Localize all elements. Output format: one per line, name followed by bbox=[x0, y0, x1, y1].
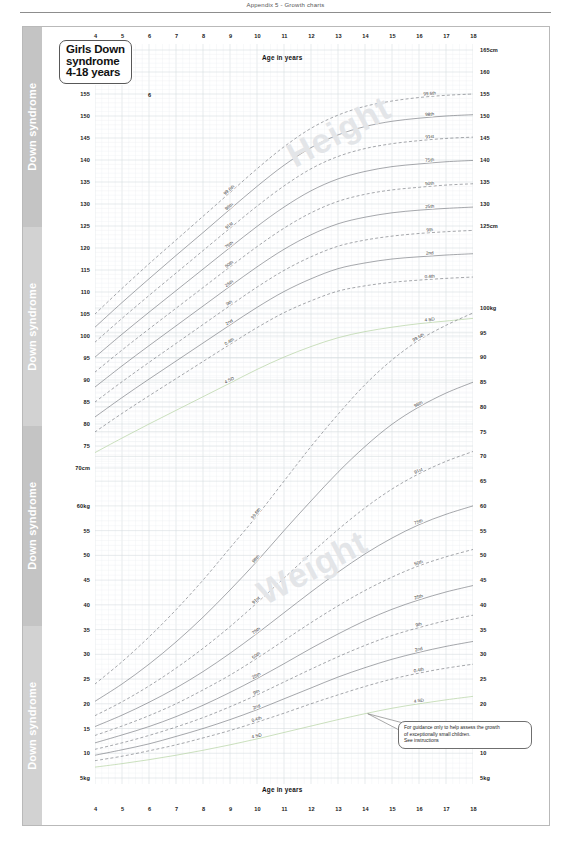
weight-tick-left: 30 bbox=[52, 651, 90, 657]
age-tick-top: 10 bbox=[253, 33, 262, 39]
height-tick-left: 130 bbox=[52, 201, 90, 207]
age-tick-bottom: 5 bbox=[118, 806, 127, 812]
height-tick-left: 90 bbox=[52, 377, 90, 383]
weight-tick-left: 5kg bbox=[52, 775, 90, 781]
weight-tick-right: 80 bbox=[480, 404, 486, 410]
weight-tick-left: 10 bbox=[52, 750, 90, 756]
curve-label-height: 75th bbox=[425, 157, 435, 163]
height-tick-left: 95 bbox=[52, 355, 90, 361]
height-tick-right: 140 bbox=[480, 157, 490, 163]
chart-title-line3: 4-18 years bbox=[66, 67, 125, 79]
height-tick-left: 80 bbox=[52, 421, 90, 427]
curve-label-height: 9th bbox=[225, 299, 233, 307]
age-tick-bottom: 16 bbox=[415, 806, 424, 812]
height-tick-right: 135 bbox=[480, 179, 490, 185]
weight-tick-right: 70 bbox=[480, 453, 486, 459]
curve-label-weight: 9th bbox=[252, 688, 260, 695]
weight-tick-right: 95 bbox=[480, 330, 486, 336]
curve-label-weight: 75th bbox=[413, 518, 424, 526]
weight-tick-right: 40 bbox=[480, 602, 486, 608]
age-tick-bottom: 11 bbox=[280, 806, 289, 812]
weight-tick-right: 5kg bbox=[480, 775, 490, 781]
side-spine-segment: Down syndrome bbox=[23, 227, 42, 427]
age-tick-bottom: 10 bbox=[253, 806, 262, 812]
weight-tick-right: 50 bbox=[480, 552, 486, 558]
curve-label-height: 99.6th bbox=[423, 90, 437, 96]
curve-label-height: 0.4th bbox=[424, 273, 435, 279]
age-tick-top: 11 bbox=[280, 33, 289, 39]
height-tick-left: 135 bbox=[52, 179, 90, 185]
growth-curves-svg: 99.6th99.6th99.6th99.6th98th98th98th98th… bbox=[95, 44, 473, 784]
weight-tick-left: 45 bbox=[52, 577, 90, 583]
age-tick-bottom: 9 bbox=[226, 806, 235, 812]
age-tick-top: 8 bbox=[199, 33, 208, 39]
height-tick-left: 70cm bbox=[52, 465, 90, 471]
weight-tick-right: 65 bbox=[480, 478, 486, 484]
age-tick-bottom: 12 bbox=[307, 806, 316, 812]
height-tick-left: 105 bbox=[52, 311, 90, 317]
height-tick-left: 155 bbox=[52, 91, 90, 97]
side-spine-label: Down syndrome bbox=[23, 426, 42, 626]
side-spine-segment: Down syndrome bbox=[23, 27, 42, 227]
curve-label-weight: 25th bbox=[414, 593, 424, 600]
weight-tick-right: 25 bbox=[480, 676, 486, 682]
age-tick-top: 6 bbox=[145, 33, 154, 39]
age-tick-bottom: 17 bbox=[442, 806, 451, 812]
age-tick-top: 17 bbox=[442, 33, 451, 39]
age-tick-top: 14 bbox=[361, 33, 370, 39]
guidance-note-line1: For guidance only to help assess the gro… bbox=[404, 725, 526, 732]
height-tick-right: 160 bbox=[480, 69, 490, 75]
chart-title-line1: Girls Down bbox=[66, 44, 125, 56]
height-tick-right: 155 bbox=[480, 91, 490, 97]
growth-chart-page: Appendix 5 - Growth charts Down syndrome… bbox=[0, 0, 571, 848]
weight-tick-left: 20 bbox=[52, 701, 90, 707]
weight-tick-right: 75 bbox=[480, 429, 486, 435]
guidance-note-line2: of exceptionally small children. bbox=[404, 732, 526, 739]
side-spine: Down syndromeDown syndromeDown syndromeD… bbox=[23, 27, 42, 825]
weight-tick-right: 100kg bbox=[480, 305, 496, 311]
age-tick-top: 4 bbox=[91, 33, 100, 39]
age-tick-top: 18 bbox=[469, 33, 478, 39]
guidance-note: For guidance only to help assess the gro… bbox=[398, 721, 532, 749]
side-spine-label: Down syndrome bbox=[23, 27, 42, 227]
height-tick-left: 100 bbox=[52, 333, 90, 339]
age-tick-bottom: 13 bbox=[334, 806, 343, 812]
age-axis-title-top: Age in years bbox=[262, 54, 302, 61]
age-tick-bottom: 18 bbox=[469, 806, 478, 812]
age-tick-bottom: 14 bbox=[361, 806, 370, 812]
age-tick-inset: 6 bbox=[145, 92, 154, 98]
guidance-note-line3: See instructions bbox=[404, 738, 526, 745]
weight-tick-left: 60kg bbox=[52, 503, 90, 509]
height-tick-right: 125cm bbox=[480, 223, 498, 229]
weight-tick-right: 45 bbox=[480, 577, 486, 583]
age-tick-bottom: 8 bbox=[199, 806, 208, 812]
weight-tick-right: 30 bbox=[480, 651, 486, 657]
height-tick-right: 150 bbox=[480, 113, 490, 119]
plot-area: 99.6th99.6th99.6th99.6th98th98th98th98th… bbox=[95, 44, 473, 784]
age-tick-top: 16 bbox=[415, 33, 424, 39]
weight-tick-left: 55 bbox=[52, 528, 90, 534]
age-tick-top: 9 bbox=[226, 33, 235, 39]
curve-label-weight: 91st bbox=[251, 595, 261, 605]
page-header: Appendix 5 - Growth charts bbox=[20, 0, 551, 14]
weight-tick-left: 35 bbox=[52, 627, 90, 633]
height-tick-right: 130 bbox=[480, 201, 490, 207]
age-tick-top: 7 bbox=[172, 33, 181, 39]
weight-tick-right: 10 bbox=[480, 750, 486, 756]
weight-tick-left: 50 bbox=[52, 552, 90, 558]
weight-tick-right: 90 bbox=[480, 354, 486, 360]
height-tick-left: 140 bbox=[52, 157, 90, 163]
height-tick-left: 150 bbox=[52, 113, 90, 119]
curve-label-height: 4 SD bbox=[424, 316, 435, 322]
height-tick-right: 165cm bbox=[480, 47, 498, 53]
age-axis-title-bottom: Age in years bbox=[262, 786, 302, 793]
curve-label-height: 91st bbox=[425, 134, 435, 140]
height-tick-right: 145 bbox=[480, 135, 490, 141]
height-tick-left: 125 bbox=[52, 223, 90, 229]
curve-label-weight: 99.6th bbox=[411, 332, 425, 343]
height-tick-left: 120 bbox=[52, 245, 90, 251]
header-rule bbox=[20, 12, 551, 13]
weight-tick-right: 55 bbox=[480, 528, 486, 534]
weight-tick-right: 85 bbox=[480, 379, 486, 385]
curve-label-height: 50th bbox=[425, 180, 435, 186]
